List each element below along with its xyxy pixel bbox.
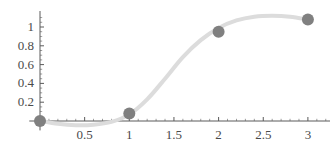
y-axis-tick-label: 0.4 [18, 76, 34, 89]
chart-plot-area: 0.20.40.60.810.511.522.53 [0, 0, 330, 148]
chart-canvas [0, 0, 330, 148]
x-axis-tick-label: 1.5 [154, 128, 194, 141]
x-axis-tick-label: 0.5 [65, 128, 105, 141]
x-axis-tick-label: 1 [109, 128, 149, 141]
chart-fitted-curve [40, 16, 308, 126]
chart-data-point [123, 107, 135, 119]
chart-data-point [213, 26, 225, 38]
chart-data-point [34, 115, 46, 127]
y-axis-tick-label: 0.8 [18, 39, 34, 52]
chart-data-point [302, 13, 314, 25]
y-axis-tick-label: 0.6 [18, 58, 34, 71]
x-axis-tick-label: 2.5 [243, 128, 283, 141]
y-axis-tick-label: 1 [28, 20, 35, 33]
x-axis-tick-label: 3 [288, 128, 328, 141]
y-axis-tick-label: 0.2 [18, 95, 34, 108]
x-axis-tick-label: 2 [199, 128, 239, 141]
